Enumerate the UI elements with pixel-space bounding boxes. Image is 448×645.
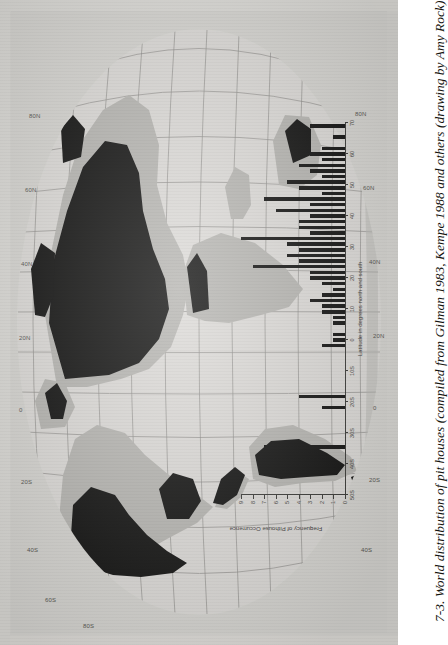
chart-x-tick <box>345 184 348 185</box>
chart-x-tick-label: 0 <box>349 338 355 341</box>
chart-x-tick <box>345 339 348 340</box>
chart-bar <box>310 299 345 302</box>
scanned-plate: 80N 60N 40N 20N 0 20S 40S 60S 80S 80N 60… <box>0 0 398 645</box>
chart-bar <box>299 259 345 262</box>
chart-x-tick-label: 70 <box>349 120 355 126</box>
chart-bar <box>287 254 345 257</box>
chart-bar <box>333 338 345 341</box>
chart-bar <box>333 333 345 336</box>
chart-x-tick-label: 20S <box>349 397 355 407</box>
chart-bar <box>299 186 345 189</box>
chart-bar <box>333 321 345 324</box>
chart-x-tick-label: 30S <box>349 428 355 438</box>
chart-y-tick <box>299 495 300 499</box>
map-label-bottom-40s: 40S <box>361 547 372 553</box>
chart-x-tick-label: 40 <box>349 213 355 219</box>
chart-bar <box>322 304 345 307</box>
rotated-figure-stage: 80N 60N 40N 20N 0 20S 40S 60S 80S 80N 60… <box>11 11 387 633</box>
map-label-60n: 60N <box>25 187 37 193</box>
chart-x-tick-label: 20 <box>349 275 355 281</box>
map-label-bottom-20s: 20S <box>369 477 380 483</box>
figure-caption: 7-3. World distribution of pit houses (c… <box>432 22 448 622</box>
chart-x-tick <box>345 246 348 247</box>
chart-x-tick <box>345 432 348 433</box>
chart-bar <box>322 406 345 409</box>
chart-x-tick-label: 10 <box>349 306 355 312</box>
map-label-80s: 80S <box>83 623 94 629</box>
chart-x-tick-label: 60 <box>349 151 355 157</box>
chart-bar <box>299 220 345 223</box>
chart-x-tick-label: 30 <box>349 244 355 250</box>
chart-y-axis-label: Frequency of Pithouse Occurrence <box>228 526 324 532</box>
chart-bar <box>253 265 345 268</box>
chart-bar <box>322 192 345 195</box>
chart-y-tick-label: 9 <box>238 501 244 513</box>
chart-bar <box>322 293 345 296</box>
chart-bar <box>322 310 345 313</box>
chart-x-axis <box>345 123 346 495</box>
chart-bar <box>322 158 345 161</box>
chart-bar <box>333 316 345 319</box>
figure-body: 80N 60N 40N 20N 0 20S 40S 60S 80S 80N 60… <box>11 11 387 633</box>
chart-x-axis-label: Latitude in degrees north and south <box>357 123 363 495</box>
chart-bar <box>310 152 345 155</box>
chart-y-tick-label: 6 <box>273 501 279 513</box>
map-label-20n: 20N <box>19 335 31 341</box>
chart-x-tick-label: 10S <box>349 366 355 376</box>
map-label-0: 0 <box>19 407 23 413</box>
chart-x-tick <box>345 308 348 309</box>
chart-bar <box>287 242 345 245</box>
chart-bar <box>310 214 345 217</box>
chart-bar <box>310 203 345 206</box>
chart-y-tick <box>322 495 323 499</box>
chart-y-tick-label: 2 <box>319 501 325 513</box>
chart-plot-area <box>241 123 345 495</box>
chart-x-tick <box>345 122 348 123</box>
chart-bar <box>299 164 345 167</box>
chart-y-tick-label: 1 <box>330 501 336 513</box>
chart-x-tick <box>345 277 348 278</box>
chart-bar <box>287 180 345 183</box>
chart-y-tick <box>287 495 288 499</box>
chart-bar <box>333 288 345 291</box>
chart-x-tick-label: 40S <box>349 459 355 469</box>
chart-x-tick <box>345 370 348 371</box>
chart-bar <box>310 124 345 127</box>
map-label-80n: 80N <box>29 113 41 119</box>
map-label-20s: 20S <box>21 479 32 485</box>
chart-y-tick-label: 0 <box>342 501 348 513</box>
chart-bar <box>264 197 345 200</box>
chart-y-tick-label: 3 <box>307 501 313 513</box>
chart-bar <box>310 271 345 274</box>
chart-bar <box>299 248 345 251</box>
map-label-40s: 40S <box>27 547 38 553</box>
chart-x-tick <box>345 215 348 216</box>
chart-y-tick-label: 5 <box>284 501 290 513</box>
chart-bar <box>322 344 345 347</box>
map-label-bottom-20n: 20N <box>373 333 385 339</box>
map-label-60s: 60S <box>45 597 56 603</box>
chart-x-tick <box>345 153 348 154</box>
chart-bar <box>322 147 345 150</box>
map-label-40n: 40N <box>21 261 33 267</box>
chart-y-axis <box>241 494 346 495</box>
chart-bar <box>333 135 345 138</box>
chart-y-tick <box>333 495 334 499</box>
chart-x-tick-label: 50 <box>349 182 355 188</box>
plate-margin-left <box>0 0 10 645</box>
chart-y-tick <box>264 495 265 499</box>
chart-bar <box>310 276 345 279</box>
chart-y-tick <box>276 495 277 499</box>
chart-x-tick-label: 50S <box>349 490 355 500</box>
chart-x-tick <box>345 401 348 402</box>
chart-y-tick <box>253 495 254 499</box>
pithouse-frequency-chart: Latitude in degrees north and south Freq… <box>239 111 367 541</box>
map-label-bottom-0: 0 <box>373 405 377 411</box>
chart-bar <box>276 209 345 212</box>
chart-bar <box>299 395 345 398</box>
chart-y-tick <box>310 495 311 499</box>
chart-bar <box>322 282 345 285</box>
chart-y-tick-label: 7 <box>261 501 267 513</box>
chart-bar <box>310 231 345 234</box>
map-label-bottom-40n: 40N <box>369 259 381 265</box>
